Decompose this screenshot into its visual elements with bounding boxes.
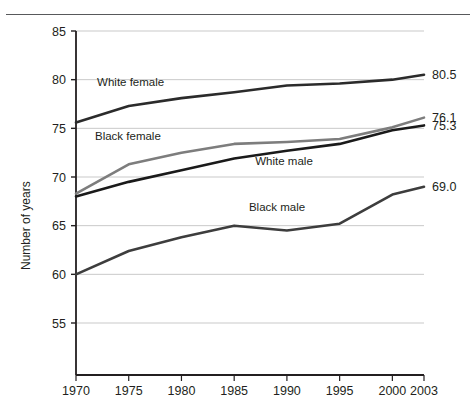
series-end-value-label: 69.0 [432,180,456,194]
x-axis-ticks-group: 19701975198019851990199520002003 [62,375,438,398]
series-end-value-labels-group: 80.576.175.369.0 [432,68,456,194]
series-end-value-label: 75.3 [432,119,456,133]
y-axis-ticks-group: 55606570758085 [52,25,76,331]
life-expectancy-line-chart: 55606570758085 1970197519801985199019952… [0,0,476,407]
y-axis-tick-label: 65 [52,219,66,233]
chart-figure: 55606570758085 1970197519801985199019952… [0,0,476,407]
gridlines-group [76,31,424,323]
x-axis-tick-label: 2000 [378,384,406,398]
y-axis-tick-label: 55 [52,317,66,331]
series-paths-group [76,75,424,275]
x-axis-tick-label: 1995 [326,384,354,398]
y-axis-tick-label: 75 [52,122,66,136]
series-label: Black male [249,201,305,213]
y-axis-tick-label: 80 [52,73,66,87]
y-axis-tick-label: 85 [52,25,66,39]
series-label: Black female [95,130,161,142]
y-axis-title: Number of years [19,181,33,270]
series-label: White female [97,76,164,88]
series-end-value-label: 80.5 [432,68,456,82]
x-axis-tick-label: 1970 [62,384,90,398]
x-axis-tick-label: 1990 [273,384,301,398]
y-axis-tick-label: 60 [52,268,66,282]
x-axis-tick-label: 1985 [220,384,248,398]
x-axis-tick-label: 1980 [168,384,196,398]
series-line [76,187,424,275]
x-axis-tick-label: 2003 [410,384,438,398]
series-label: White male [255,155,313,167]
x-axis-tick-label: 1975 [115,384,143,398]
y-axis-tick-label: 70 [52,171,66,185]
